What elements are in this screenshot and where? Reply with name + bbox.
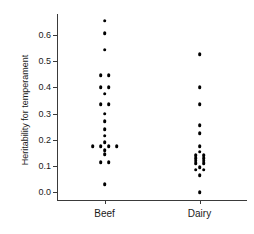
y-tick-mark — [53, 61, 57, 62]
y-tick-label: 0.3 — [38, 109, 51, 119]
data-point — [198, 86, 202, 90]
data-point — [194, 162, 198, 166]
data-point — [198, 190, 202, 194]
data-point — [198, 173, 202, 177]
y-tick-mark — [53, 114, 57, 115]
y-tick-mark — [53, 35, 57, 36]
data-point — [198, 144, 202, 148]
data-point — [103, 92, 107, 96]
x-tick-label-dairy: Dairy — [188, 208, 211, 219]
y-tick-label: 0.4 — [38, 82, 51, 92]
y-tick-label: 0.6 — [38, 30, 51, 40]
data-point — [194, 168, 198, 172]
y-tick-mark — [53, 87, 57, 88]
y-tick-label: 0.2 — [38, 135, 51, 145]
data-point — [103, 120, 107, 124]
data-point — [198, 103, 202, 107]
data-point — [99, 86, 103, 90]
x-tick-label-beef: Beef — [94, 208, 115, 219]
y-axis-line — [57, 14, 58, 200]
x-tick-mark — [105, 200, 106, 204]
data-point — [107, 86, 111, 90]
data-point — [198, 150, 202, 154]
data-point — [99, 160, 103, 164]
data-point — [103, 48, 107, 52]
y-tick-mark — [53, 140, 57, 141]
y-tick-label: 0.0 — [38, 187, 51, 197]
y-tick-label: 0.5 — [38, 56, 51, 66]
data-point — [99, 103, 103, 107]
data-point — [202, 168, 206, 172]
data-point — [103, 127, 107, 131]
data-point — [107, 160, 111, 164]
y-tick-label: 0.1 — [38, 161, 51, 171]
data-point — [198, 131, 202, 135]
strip-plot-chart: Heritability for temperament 0.00.10.20.… — [0, 0, 254, 234]
data-point — [107, 103, 111, 107]
y-tick-mark — [53, 192, 57, 193]
y-axis-title: Heritability for temperament — [20, 25, 30, 195]
data-point — [103, 141, 107, 145]
data-point — [107, 144, 111, 148]
data-point — [202, 162, 206, 166]
data-point — [103, 152, 107, 156]
data-point — [198, 52, 202, 56]
data-point — [115, 144, 119, 148]
data-point — [91, 144, 95, 148]
plot-area: 0.00.10.20.30.40.50.6 BeefDairy — [57, 14, 247, 200]
data-point — [103, 112, 107, 116]
data-point — [198, 124, 202, 128]
data-point — [99, 73, 103, 77]
data-point — [103, 134, 107, 138]
data-point — [103, 19, 107, 23]
y-tick-mark — [53, 166, 57, 167]
data-point — [103, 31, 107, 35]
data-point — [107, 73, 111, 77]
data-point — [99, 144, 103, 148]
data-point — [103, 182, 107, 186]
x-tick-mark — [200, 200, 201, 204]
x-axis-line — [57, 200, 247, 201]
